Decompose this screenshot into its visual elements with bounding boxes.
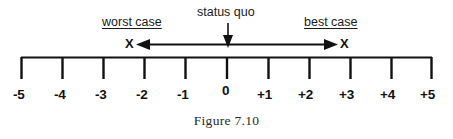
axis-ticks: [22, 57, 432, 79]
tick-label--1: -1: [177, 88, 189, 102]
figure-container: worst case status quo best case X X -5 -…: [0, 0, 453, 139]
annotation-status-quo: status quo: [197, 6, 255, 19]
status-quo-arrow-head: [223, 35, 233, 48]
range-arrow: [136, 39, 338, 50]
range-arrow-left-head: [136, 39, 150, 50]
tick-label-+5: +5: [420, 88, 435, 102]
annotation-worst-case: worst case: [102, 16, 162, 29]
tick-label--2: -2: [136, 88, 148, 102]
range-arrow-right-head: [324, 39, 338, 50]
tick-label--3: -3: [95, 88, 107, 102]
tick-label-+2: +2: [298, 88, 313, 102]
tick-label-+1: +1: [257, 88, 272, 102]
annotation-best-case: best case: [304, 16, 358, 29]
marker-x-left: X: [125, 37, 134, 50]
tick-label-+4: +4: [380, 88, 395, 102]
figure-caption: Figure 7.10: [0, 113, 453, 129]
marker-x-right: X: [340, 37, 349, 50]
tick-label--4: -4: [54, 88, 66, 102]
tick-label-0: 0: [222, 84, 229, 98]
tick-label-+3: +3: [339, 88, 354, 102]
tick-label--5: -5: [13, 88, 25, 102]
